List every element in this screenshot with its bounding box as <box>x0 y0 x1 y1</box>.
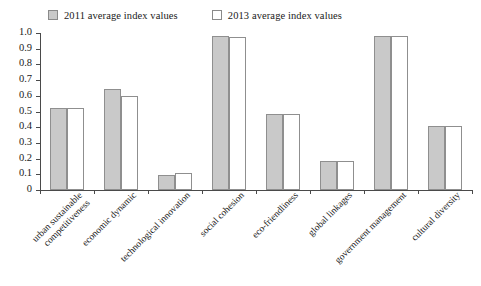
bar <box>229 37 246 190</box>
x-axis-labels: urban sustainablecompetitivenesseconomic… <box>40 190 481 286</box>
bar <box>50 108 67 190</box>
bar <box>158 175 175 190</box>
legend-label-2011: 2011 average index values <box>64 10 178 21</box>
y-tick-label: 0.4 <box>19 120 32 131</box>
bar <box>320 161 337 190</box>
legend-swatch-2011 <box>48 10 58 20</box>
bar <box>104 89 121 190</box>
x-axis-label: global linkages <box>306 190 355 239</box>
bar <box>212 36 229 190</box>
y-tick-label: 0.2 <box>19 152 32 163</box>
bar <box>121 96 138 190</box>
x-axis-label-line: social cohesion <box>198 190 246 238</box>
y-tick-label: 0.5 <box>19 105 32 116</box>
x-axis-label-line: economic dynamic <box>80 190 138 248</box>
bars-layer <box>40 33 472 190</box>
y-tick-label: 0.7 <box>19 73 32 84</box>
y-tick-label: 0.8 <box>19 57 32 68</box>
legend-entry-2013: 2013 average index values <box>212 10 342 21</box>
bar <box>337 161 354 190</box>
bar <box>67 108 84 190</box>
y-tick-label: 0.1 <box>19 167 32 178</box>
x-axis-label-line: cultural diversity <box>409 190 462 243</box>
y-tick-label: 0.3 <box>19 136 32 147</box>
y-tick-label: 0.6 <box>19 89 32 100</box>
x-axis-label: economic dynamic <box>80 190 139 249</box>
x-axis-label: eco-friendliness <box>250 190 301 241</box>
x-axis-label-line: global linkages <box>306 190 354 238</box>
x-axis-label: cultural diversity <box>409 190 462 243</box>
x-axis-label: social cohesion <box>198 190 247 239</box>
chart-legend: 2011 average index values 2013 average i… <box>48 6 348 24</box>
y-tick-label: 0 <box>27 183 32 194</box>
bar <box>283 114 300 190</box>
plot-area: 1.00.90.80.70.60.50.40.30.20.10 <box>40 33 472 190</box>
y-tick-label: 1.0 <box>19 26 32 37</box>
chart-page: 2011 average index values 2013 average i… <box>0 0 481 286</box>
bar <box>266 114 283 190</box>
bar <box>391 36 408 190</box>
bar <box>428 126 445 190</box>
legend-swatch-2013 <box>212 10 222 20</box>
y-tick-label: 0.9 <box>19 42 32 53</box>
legend-entry-2011: 2011 average index values <box>48 10 178 21</box>
bar <box>445 126 462 190</box>
bar <box>175 173 192 190</box>
x-axis-label-line: eco-friendliness <box>250 190 300 240</box>
bar <box>374 36 391 190</box>
legend-label-2013: 2013 average index values <box>228 10 342 21</box>
